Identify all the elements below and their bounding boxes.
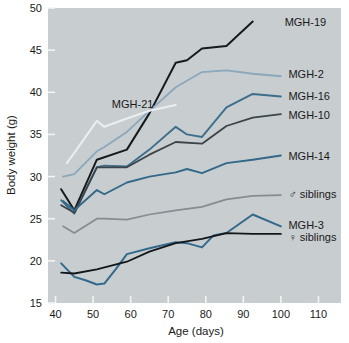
x-tick-label: 40: [49, 308, 61, 320]
y-tick-label: 50: [30, 2, 42, 14]
series-label-mgh-14: MGH-14: [288, 150, 330, 162]
series-label--siblings: ♂ siblings: [288, 188, 336, 200]
series-label-mgh-19: MGH-19: [285, 16, 327, 28]
series-label-mgh-10: MGH-10: [288, 109, 330, 121]
series-label-mgh-2: MGH-2: [288, 68, 323, 80]
y-tick-label: 15: [30, 297, 42, 309]
series-label--siblings: ♀ siblings: [288, 231, 336, 243]
y-tick-label: 40: [30, 86, 42, 98]
x-tick-label: 70: [162, 308, 174, 320]
series-label-mgh-16: MGH-16: [288, 90, 330, 102]
x-tick-label: 50: [87, 308, 99, 320]
line-chart: 1520253035404550 405060708090100110 MGH-…: [0, 0, 349, 343]
y-tick-label: 20: [30, 255, 42, 267]
y-tick-label: 35: [30, 128, 42, 140]
y-tick-label: 25: [30, 213, 42, 225]
x-tick-label: 100: [272, 308, 290, 320]
y-tick-label: 30: [30, 171, 42, 183]
x-tick-label: 60: [125, 308, 137, 320]
x-axis-tick-labels: 405060708090100110: [49, 308, 327, 320]
x-axis-title: Age (days): [168, 325, 224, 337]
x-tick-label: 80: [200, 308, 212, 320]
series-label-mgh-3: MGH-3: [288, 219, 323, 231]
series-label-mgh-21: MGH-21: [112, 98, 154, 110]
chart-figure: 1520253035404550 405060708090100110 MGH-…: [0, 0, 349, 343]
y-axis-tick-labels: 1520253035404550: [30, 2, 42, 309]
x-tick-label: 110: [310, 308, 328, 320]
y-tick-label: 45: [30, 44, 42, 56]
y-axis-title: Body weight (g): [5, 115, 17, 195]
x-tick-label: 90: [237, 308, 249, 320]
